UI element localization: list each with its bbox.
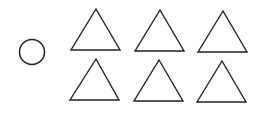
triangle-shape <box>198 11 247 52</box>
shapes-figure <box>0 0 259 113</box>
triangle-shape <box>135 10 184 51</box>
triangle-shape <box>70 59 119 100</box>
triangle-shape <box>197 61 246 102</box>
circle-shape <box>20 40 45 65</box>
triangle-shape <box>134 60 183 101</box>
triangle-shape <box>71 9 120 50</box>
triangle-grid <box>70 9 247 102</box>
diagram-canvas <box>0 0 259 113</box>
